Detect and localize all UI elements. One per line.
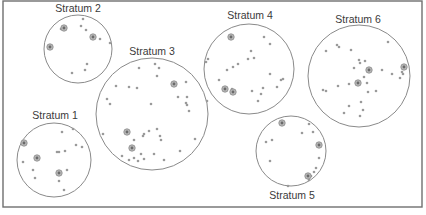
population-unit-dot	[251, 90, 254, 93]
population-unit-dot	[61, 131, 64, 134]
population-unit-dot	[64, 150, 67, 153]
population-unit-dot	[364, 60, 367, 63]
sampled-unit-marker	[34, 155, 40, 161]
population-unit-dot	[140, 153, 143, 156]
stratum-label: Stratum 4	[227, 9, 273, 21]
population-unit-dot	[82, 18, 85, 21]
population-unit-dot	[128, 86, 131, 89]
population-unit-dot	[160, 139, 163, 142]
sampled-unit-marker	[279, 120, 285, 126]
population-unit-dot	[343, 112, 346, 115]
population-unit-dot	[271, 139, 274, 142]
population-unit-dot	[63, 189, 66, 192]
population-unit-dot	[358, 59, 361, 62]
population-unit-dot	[186, 96, 189, 99]
population-unit-dot	[362, 109, 365, 112]
population-unit-dot	[269, 73, 272, 76]
stratum-label: Stratum 5	[269, 189, 315, 201]
population-unit-dot	[313, 171, 316, 174]
population-unit-dot	[58, 151, 61, 154]
population-unit-dot	[363, 76, 366, 79]
population-unit-dot	[322, 89, 325, 92]
population-unit-dot	[265, 141, 268, 144]
population-unit-dot	[109, 42, 112, 45]
population-unit-dot	[247, 58, 250, 61]
population-unit-dot	[336, 44, 339, 47]
population-unit-dot	[250, 50, 253, 53]
population-unit-dot	[156, 75, 159, 78]
diagram-frame	[3, 1, 422, 207]
population-unit-dot	[143, 133, 146, 136]
population-unit-dot	[137, 160, 140, 163]
population-unit-dot	[207, 58, 210, 61]
population-unit-dot	[338, 46, 341, 49]
population-unit-dot	[350, 49, 353, 52]
population-unit-dot	[133, 139, 136, 142]
population-unit-dot	[150, 103, 153, 106]
population-unit-dot	[308, 123, 311, 126]
population-unit-dot	[337, 85, 340, 88]
population-unit-dot	[66, 169, 69, 172]
population-unit-dot	[391, 73, 394, 76]
sampled-unit-marker	[56, 170, 62, 176]
population-unit-dot	[72, 128, 75, 131]
population-unit-dot	[232, 66, 235, 69]
population-unit-dot	[153, 153, 156, 156]
population-unit-dot	[218, 79, 221, 82]
population-unit-dot	[99, 38, 102, 41]
population-unit-dot	[85, 29, 88, 32]
population-unit-dot	[359, 62, 362, 65]
population-unit-dot	[34, 177, 37, 180]
sampled-unit-marker	[171, 81, 177, 87]
population-unit-dot	[58, 180, 61, 183]
population-unit-dot	[159, 135, 162, 138]
sampled-unit-marker	[90, 34, 96, 40]
sampled-unit-marker	[305, 173, 311, 179]
sampled-unit-marker	[228, 34, 234, 40]
population-unit-dot	[177, 96, 180, 99]
population-unit-dot	[206, 100, 209, 103]
population-unit-dot	[366, 82, 369, 85]
population-unit-dot	[325, 90, 328, 93]
population-unit-dot	[375, 90, 378, 93]
population-unit-dot	[188, 110, 191, 113]
population-unit-dot	[359, 115, 362, 118]
stratum-label: Stratum 1	[32, 109, 78, 121]
population-unit-dot	[186, 104, 189, 107]
population-unit-dot	[133, 157, 136, 160]
stratum-label: Stratum 6	[335, 13, 381, 25]
population-unit-dot	[253, 57, 256, 60]
sampled-unit-marker	[129, 145, 135, 151]
population-unit-dot	[269, 43, 272, 46]
population-unit-dot	[348, 105, 351, 108]
stratum-label: Stratum 2	[55, 2, 101, 14]
population-unit-dot	[226, 69, 229, 72]
population-unit-dot	[136, 87, 139, 90]
population-unit-dot	[102, 133, 105, 136]
sampled-unit-marker	[316, 142, 322, 148]
population-unit-dot	[381, 69, 384, 72]
population-unit-dot	[185, 81, 188, 84]
population-unit-dot	[106, 98, 109, 101]
sampled-unit-marker	[366, 67, 372, 73]
population-unit-dot	[257, 100, 260, 103]
population-unit-dot	[32, 169, 35, 172]
population-unit-dot	[109, 103, 112, 106]
population-unit-dot	[353, 67, 356, 70]
population-unit-dot	[84, 69, 87, 72]
population-unit-dot	[128, 159, 131, 162]
sampled-unit-marker	[21, 140, 27, 146]
population-unit-dot	[312, 131, 315, 134]
population-unit-dot	[138, 67, 141, 70]
population-unit-dot	[194, 138, 197, 141]
population-unit-dot	[75, 144, 78, 147]
population-unit-dot	[163, 159, 166, 162]
population-unit-dot	[71, 72, 74, 75]
strata-diagram: Stratum 1Stratum 2Stratum 3Stratum 4Stra…	[0, 0, 426, 215]
sampled-unit-marker	[47, 44, 53, 50]
population-unit-dot	[260, 93, 263, 96]
population-unit-dot	[154, 63, 157, 66]
sampled-unit-marker	[124, 129, 130, 135]
population-unit-dot	[367, 91, 370, 94]
population-unit-dot	[276, 86, 279, 89]
